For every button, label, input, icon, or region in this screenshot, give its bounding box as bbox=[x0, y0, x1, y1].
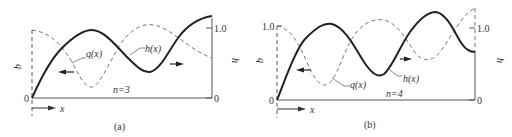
left-axis-label-a: q bbox=[14, 64, 25, 69]
arrow-right-head-b bbox=[404, 57, 412, 62]
q-leader-b bbox=[332, 78, 350, 86]
q-curve-a bbox=[32, 25, 212, 88]
arrow-left-head-a bbox=[58, 70, 66, 75]
n-label-b: n=4 bbox=[386, 88, 403, 99]
right-axis-label-b: h bbox=[495, 58, 506, 63]
h-label-b: h(x) bbox=[403, 73, 420, 85]
caption-b: (b) bbox=[364, 119, 376, 131]
left-zero-b: 0 bbox=[269, 95, 274, 106]
arrow-left-head-b bbox=[296, 68, 304, 73]
x-label-b: x bbox=[309, 104, 315, 115]
h-leader-a bbox=[130, 48, 145, 55]
q-label-a: q(x) bbox=[86, 48, 103, 60]
left-axis-label-b: q bbox=[256, 58, 267, 63]
panel-b: q(x) h(x) n=4 1.0 0 0 1.0 q h x (b) bbox=[256, 8, 506, 131]
right-zero-a: 0 bbox=[214, 93, 219, 104]
h-curve-b bbox=[277, 12, 475, 100]
h-label-a: h(x) bbox=[145, 43, 162, 55]
x-arrow-head-a bbox=[48, 106, 56, 111]
x-label-a: x bbox=[59, 103, 65, 114]
figure: q(x) h(x) n=3 0 0 1.0 q h x (a) bbox=[0, 0, 512, 137]
panel-a: q(x) h(x) n=3 0 0 1.0 q h x (a) bbox=[14, 16, 241, 133]
caption-a: (a) bbox=[114, 121, 125, 133]
right-zero-b: 0 bbox=[477, 95, 482, 106]
right-axis-label-a: h bbox=[230, 58, 241, 63]
q-curve-b bbox=[277, 8, 475, 85]
left-zero-a: 0 bbox=[24, 93, 29, 104]
q-leader-a bbox=[72, 58, 86, 63]
left-tick-label-b: 1.0 bbox=[262, 21, 275, 32]
arrow-right-head-a bbox=[176, 62, 184, 67]
right-tick-label-b: 1.0 bbox=[477, 23, 490, 34]
right-tick-label-a: 1.0 bbox=[214, 23, 227, 34]
x-arrow-head-b bbox=[298, 107, 306, 112]
q-label-b: q(x) bbox=[350, 79, 367, 91]
n-label-a: n=3 bbox=[113, 84, 130, 95]
